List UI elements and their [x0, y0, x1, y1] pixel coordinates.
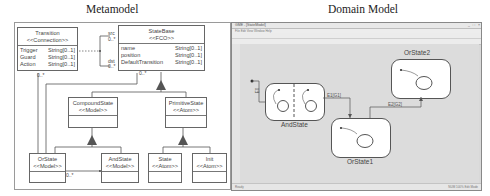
- domain-model-drawing: [0, 0, 490, 196]
